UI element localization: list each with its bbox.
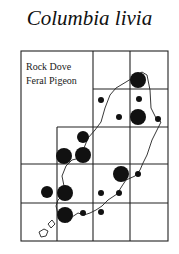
record-dot	[77, 131, 89, 143]
legend-line-common-name: Rock Dove	[26, 60, 77, 74]
record-dot	[113, 166, 129, 182]
record-dot	[56, 148, 72, 164]
record-dot	[80, 210, 86, 216]
record-dot	[130, 109, 146, 125]
map-legend: Rock Dove Feral Pigeon	[26, 60, 77, 88]
record-dot	[98, 97, 104, 103]
record-dot	[57, 185, 73, 201]
record-dot	[98, 190, 104, 196]
record-dot	[136, 96, 142, 102]
distribution-map	[0, 0, 179, 254]
record-dot	[57, 207, 73, 223]
record-dot	[75, 147, 91, 163]
record-dot	[135, 171, 141, 177]
legend-line-alt-name: Feral Pigeon	[26, 74, 77, 88]
record-dot	[130, 72, 146, 88]
record-dot	[155, 116, 161, 122]
record-dot	[116, 114, 122, 120]
record-dots	[41, 72, 161, 223]
record-dot	[41, 186, 53, 198]
record-dot	[98, 209, 104, 215]
record-dot	[116, 190, 122, 196]
